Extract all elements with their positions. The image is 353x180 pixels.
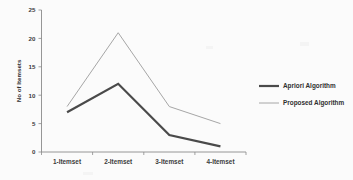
y-tick-label-0: 0 [32, 148, 36, 155]
y-axis-title: No of Itemsets [15, 59, 22, 102]
x-tick-label-4-itemset: 4-Itemset [206, 158, 235, 165]
y-tick-label-5: 5 [32, 120, 36, 127]
series-line-apriori-algorithm [67, 84, 220, 146]
x-tick-label-2-itemset: 2-Itemset [104, 158, 133, 165]
chart-canvas: 25 20 15 10 5 0 No of Itemsets 1-Itemset… [0, 0, 353, 180]
x-tick-label-3-itemset: 3-Itemset [155, 158, 184, 165]
legend: Apriori Algorithm Proposed Algorithm [259, 82, 345, 107]
y-tick-label-15: 15 [29, 63, 36, 70]
legend-label-apriori-algorithm: Apriori Algorithm [283, 82, 336, 90]
y-tick-label-25: 25 [29, 6, 36, 13]
x-tick-label-1-itemset: 1-Itemset [53, 158, 82, 165]
legend-label-proposed-algorithm: Proposed Algorithm [283, 99, 345, 107]
line-chart: 25 20 15 10 5 0 No of Itemsets 1-Itemset… [0, 0, 353, 180]
y-tick-label-10: 10 [29, 92, 36, 99]
y-tick-label-20: 20 [29, 35, 36, 42]
